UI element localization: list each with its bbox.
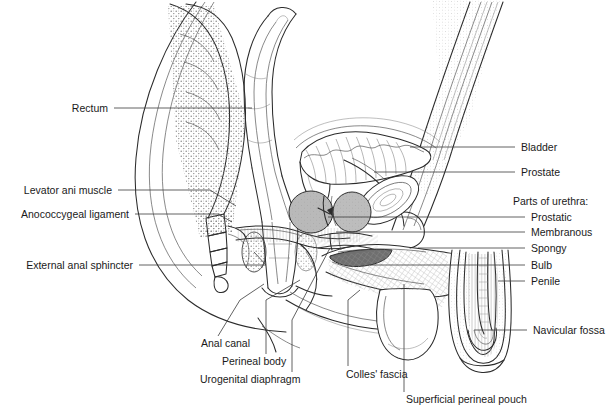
label-prostate: Prostate	[521, 167, 560, 178]
penis	[448, 248, 514, 373]
label-colles-fascia: Colles' fascia	[346, 369, 408, 380]
label-rectum: Rectum	[72, 103, 108, 114]
label-bladder: Bladder	[521, 142, 557, 153]
rectum	[244, 7, 298, 222]
label-urethra-penile: Penile	[531, 276, 560, 287]
label-anococcygeal-ligament: Anococcygeal ligament	[21, 209, 129, 220]
label-urethra-bulb: Bulb	[531, 260, 552, 271]
label-urethra-prostatic: Prostatic	[531, 212, 572, 223]
label-external-anal-sphincter: External anal sphincter	[26, 260, 133, 271]
scrotum	[377, 289, 439, 360]
label-urethra-membranous: Membranous	[531, 227, 592, 238]
label-navicular-fossa: Navicular fossa	[533, 325, 605, 336]
label-anal-canal: Anal canal	[201, 338, 250, 349]
label-levator-ani-muscle: Levator ani muscle	[24, 185, 112, 196]
label-urogenital-diaphragm: Urogenital diaphragm	[200, 374, 300, 385]
label-superficial-perineal-pouch: Superficial perineal pouch	[406, 394, 527, 405]
label-parts-of-urethra-heading: Parts of urethra:	[513, 196, 588, 207]
label-urethra-spongy: Spongy	[531, 243, 567, 254]
label-perineal-body: Perineal body	[222, 356, 286, 367]
figure-canvas: Rectum Levator ani muscle Anococcygeal l…	[0, 0, 615, 419]
